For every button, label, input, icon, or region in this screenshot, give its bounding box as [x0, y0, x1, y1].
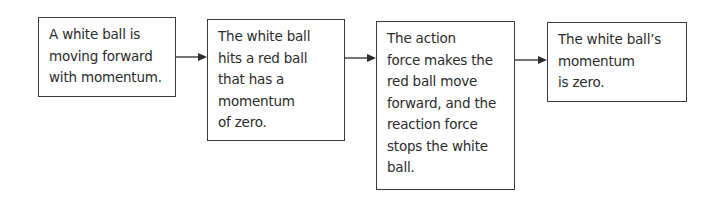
step-box-3: The action force makes the red ball move…: [376, 21, 515, 190]
arrow-icon: [345, 52, 377, 64]
step-box-1: A white ball is moving forward with mome…: [38, 17, 176, 97]
arrow-icon: [515, 54, 548, 66]
step-box-2: The white ball hits a red ball that has …: [207, 19, 345, 141]
arrow-icon: [176, 51, 208, 63]
step-box-4: The white ball’s momentum is zero.: [547, 22, 687, 102]
